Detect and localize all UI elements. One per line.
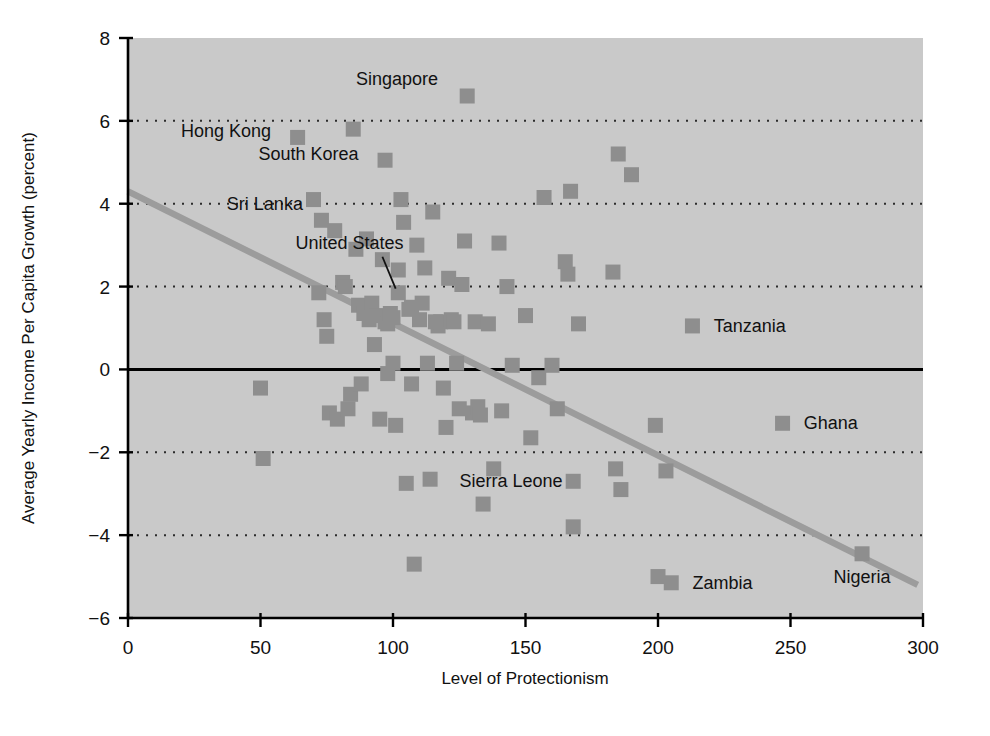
data-point [354,376,369,391]
data-point [420,356,435,371]
annotation-label-nigeria: Nigeria [834,567,892,587]
data-point [386,310,401,325]
y-tick-label-6: 6 [99,111,110,132]
data-point [855,546,870,561]
y-tick-label--2: −2 [88,442,110,463]
data-point [409,238,424,253]
data-point [454,277,469,292]
data-point [566,474,581,489]
y-tick-label-8: 8 [99,28,110,49]
annotation-label-hong-kong: Hong Kong [181,121,271,141]
data-point [460,89,475,104]
data-point [664,575,679,590]
data-point [306,192,321,207]
x-tick-label-250: 250 [775,637,807,658]
data-point [314,213,329,228]
data-point [417,260,432,275]
data-point [537,190,552,205]
y-tick-label-0: 0 [99,359,110,380]
y-tick-label-2: 2 [99,277,110,298]
data-point [518,308,533,323]
data-point [378,153,393,168]
data-point [473,408,488,423]
data-point [425,205,440,220]
data-point [481,316,496,331]
plot-canvas: 050100150200250300 −6−4−202468 Singapore… [0,0,990,736]
data-point [505,358,520,373]
data-point [494,403,509,418]
data-point [523,430,538,445]
data-point [338,279,353,294]
data-point [648,418,663,433]
annotation-label-tanzania: Tanzania [714,316,787,336]
y-tick-label-4: 4 [99,194,110,215]
data-point [476,497,491,512]
x-tick-labels-group: 050100150200250300 [123,637,939,658]
data-point [367,337,382,352]
data-point [651,569,666,584]
scatter-chart-figure: 050100150200250300 −6−4−202468 Singapore… [0,0,990,736]
x-tick-label-300: 300 [907,637,939,658]
data-point [452,401,467,416]
data-point [388,418,403,433]
data-point [423,472,438,487]
annotation-label-united-states: United States [296,233,404,253]
data-point [605,265,620,280]
annotation-label-south-korea: South Korea [258,144,359,164]
data-point [399,476,414,491]
data-point [624,167,639,182]
y-tick-labels-group: −6−4−202468 [88,28,110,629]
data-point [391,285,406,300]
x-tick-label-0: 0 [123,637,134,658]
y-tick-label--4: −4 [88,525,110,546]
annotation-label-singapore: Singapore [356,69,438,89]
data-point [396,215,411,230]
data-point [531,370,546,385]
annotation-label-zambia: Zambia [692,573,753,593]
data-point [685,318,700,333]
data-point [613,482,628,497]
data-point [311,285,326,300]
data-point [545,358,560,373]
x-tick-label-50: 50 [250,637,271,658]
data-point [391,263,406,278]
data-point [256,451,271,466]
data-point [468,314,483,329]
data-point [499,279,514,294]
annotation-label-sierra-leone: Sierra Leone [460,471,563,491]
data-point [492,236,507,251]
data-point [407,557,422,572]
data-point [608,461,623,476]
y-axis-title: Average Yearly Income Per Capita Growth … [19,132,38,524]
data-point [441,271,456,286]
data-point [566,519,581,534]
data-point [375,252,390,267]
data-point [393,192,408,207]
data-point [317,312,332,327]
x-tick-label-150: 150 [510,637,542,658]
data-point [571,316,586,331]
y-tick-label--6: −6 [88,608,110,629]
data-point [340,401,355,416]
data-point [436,381,451,396]
data-point [346,122,361,137]
x-tick-label-200: 200 [642,637,674,658]
data-point [412,312,427,327]
data-point [775,416,790,431]
annotation-label-sri-lanka: Sri Lanka [227,194,304,214]
data-point [457,234,472,249]
data-point [611,147,626,162]
annotation-label-ghana: Ghana [804,413,859,433]
data-point [563,184,578,199]
data-point [386,356,401,371]
data-point [560,267,575,282]
data-point [290,130,305,145]
data-point [253,381,268,396]
data-point [439,420,454,435]
data-point [449,356,464,371]
data-point [550,401,565,416]
data-point [446,314,461,329]
x-tick-label-100: 100 [377,637,409,658]
data-point [372,412,387,427]
data-point [404,376,419,391]
